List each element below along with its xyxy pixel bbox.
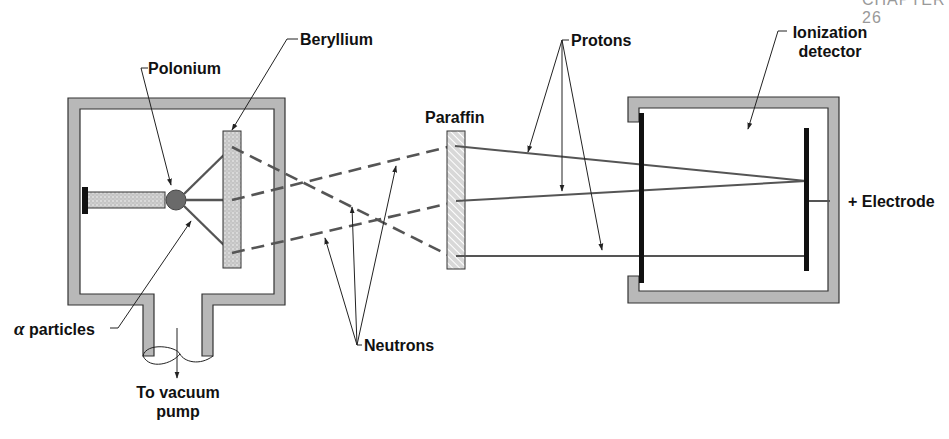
proton-tracks [455, 146, 806, 256]
detector-window-plate [639, 113, 644, 283]
label-to-vacuum-pump: To vacuum pump [128, 383, 228, 421]
label-protons: Protons [571, 31, 631, 50]
ionization-line2: detector [786, 42, 874, 61]
alpha-particles-text: particles [29, 321, 95, 338]
vacuum-chamber [68, 98, 285, 364]
neutron-beams [232, 146, 452, 256]
label-electrode: + Electrode [848, 192, 935, 211]
alpha-symbol: α [14, 318, 25, 339]
label-polonium: Polonium [148, 59, 221, 78]
label-neutrons: Neutrons [364, 336, 434, 355]
label-paraffin: Paraffin [425, 108, 485, 127]
polonium-source [166, 190, 186, 210]
label-beryllium: Beryllium [300, 30, 373, 49]
electrode-plate [804, 128, 809, 271]
label-alpha-particles: α particles [14, 319, 95, 339]
vacuum-pump-line2: pump [128, 402, 228, 421]
label-ionization-detector: Ionization detector [786, 23, 874, 61]
ionization-line1: Ionization [786, 23, 874, 42]
ionization-detector [628, 97, 839, 303]
rod-cap [82, 187, 88, 214]
source-rod [87, 192, 165, 208]
neutron-discovery-diagram [0, 0, 949, 439]
vacuum-pump-line1: To vacuum [128, 383, 228, 402]
